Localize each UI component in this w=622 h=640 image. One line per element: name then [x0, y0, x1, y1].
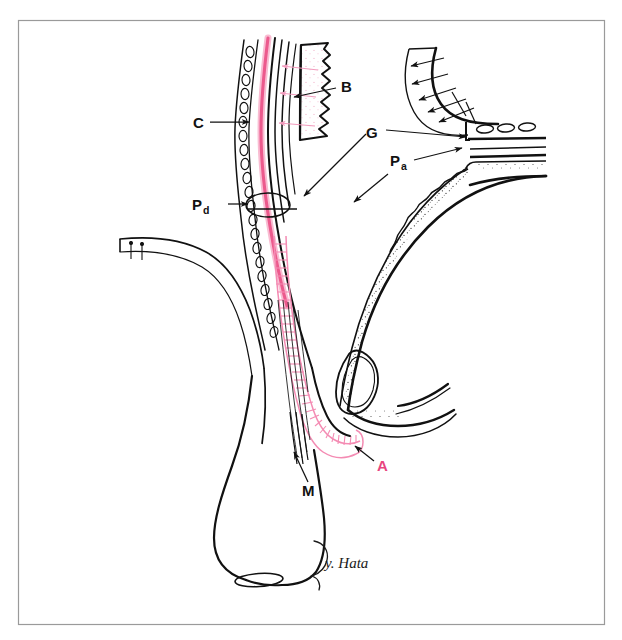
label-Pd-subscript: d: [203, 204, 209, 216]
label-Pa-subscript: a: [401, 160, 407, 172]
anatomical-diagram: B C G P d P a M A y. Hata: [0, 0, 622, 640]
label-C: C: [193, 114, 204, 131]
signature-text: y. Hata: [323, 555, 368, 571]
figure-canvas: B C G P d P a M A y. Hata: [0, 0, 622, 640]
label-A: A: [377, 457, 388, 474]
label-M: M: [302, 482, 315, 499]
label-Pd: P: [192, 196, 202, 213]
lamella-stipple-strip: [478, 163, 546, 170]
label-B: B: [341, 78, 352, 95]
label-G: G: [366, 124, 378, 141]
hatched-band-top-edge: [409, 48, 436, 49]
lamella-line-1: [468, 138, 546, 139]
b-plate-left-edge: [300, 45, 301, 140]
pa-lower-stipple: [352, 408, 400, 417]
label-Pa: P: [390, 152, 400, 169]
